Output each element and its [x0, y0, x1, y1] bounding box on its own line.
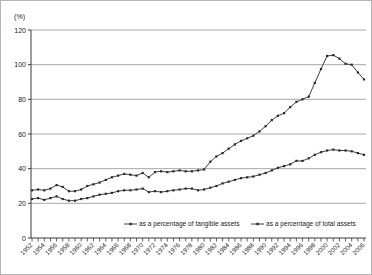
legend-item-0: as a percentage of tangible assets [124, 220, 240, 228]
x-tick-label: 1996 [289, 241, 304, 256]
legend-label: as a percentage of tangible assets [139, 220, 240, 228]
series-1-marker [332, 149, 334, 151]
series-line-1 [32, 150, 364, 201]
series-1-marker [265, 172, 267, 174]
series-1-marker [154, 190, 156, 192]
y-axis-title: (%) [14, 13, 25, 21]
x-tick-label: 1974 [154, 241, 169, 256]
series-0-marker [129, 174, 131, 176]
x-tick-label: 2006 [351, 241, 366, 256]
series-1-marker [148, 191, 150, 193]
x-tick-label: 1978 [179, 241, 194, 256]
y-tick-label: 20 [18, 200, 26, 207]
series-1-marker [80, 198, 82, 200]
y-tick-label: 100 [14, 61, 26, 68]
x-tick-label: 1986 [228, 241, 243, 256]
x-tick-label: 1954 [31, 241, 46, 256]
series-1-marker [117, 190, 119, 192]
series-0-marker [283, 112, 285, 114]
series-1-marker [326, 149, 328, 151]
series-0-marker [172, 170, 174, 172]
series-0-marker [111, 176, 113, 178]
series-0-marker [301, 98, 303, 100]
series-0-marker [289, 106, 291, 108]
series-0-marker [86, 185, 88, 187]
y-tick-label: 0 [22, 235, 26, 242]
series-1-marker [49, 197, 51, 199]
x-tick-label: 1968 [117, 241, 132, 256]
series-1-marker [314, 154, 316, 156]
series-0-marker [80, 188, 82, 190]
x-tick-label: 1994 [277, 241, 292, 256]
series-0-marker [252, 135, 254, 137]
series-0-marker [197, 169, 199, 171]
chart-figure: 020406080100120(%)1952195419561958196019… [0, 0, 372, 275]
series-1-marker [86, 197, 88, 199]
series-0-marker [74, 190, 76, 192]
series-0-marker [56, 184, 58, 186]
x-tick-label: 1964 [93, 241, 108, 256]
series-0-marker [203, 168, 205, 170]
series-0-marker [295, 101, 297, 103]
x-tick-label: 1958 [56, 241, 71, 256]
x-tick-label: 1960 [68, 241, 83, 256]
y-tick-label: 120 [14, 27, 26, 34]
series-1-marker [191, 188, 193, 190]
series-0-marker [332, 54, 334, 56]
y-tick-label: 60 [18, 131, 26, 138]
series-0-marker [357, 71, 359, 73]
x-tick-label: 1956 [43, 241, 58, 256]
series-1-marker [308, 157, 310, 159]
series-0-marker [258, 130, 260, 132]
series-1-marker [160, 191, 162, 193]
series-1-marker [92, 195, 94, 197]
x-tick-label: 1990 [252, 241, 267, 256]
series-0-marker [215, 155, 217, 157]
series-1-marker [166, 190, 168, 192]
series-0-marker [265, 125, 267, 127]
series-1-marker [123, 189, 125, 191]
x-tick-label: 1970 [130, 241, 145, 256]
series-0-marker [166, 171, 168, 173]
legend-marker-square [129, 223, 131, 225]
x-tick-label: 1980 [191, 241, 206, 256]
series-1-marker [252, 175, 254, 177]
series-0-marker [99, 181, 101, 183]
series-1-marker [240, 177, 242, 179]
series-1-marker [234, 179, 236, 181]
series-0-marker [345, 63, 347, 65]
x-tick-label: 2002 [326, 241, 341, 256]
series-1-marker [338, 149, 340, 151]
series-0-marker [320, 68, 322, 70]
series-1-marker [258, 174, 260, 176]
series-1-marker [215, 185, 217, 187]
x-tick-label: 1984 [216, 241, 231, 256]
series-0-marker [228, 148, 230, 150]
y-tick-label: 80 [18, 96, 26, 103]
series-1-marker [289, 163, 291, 165]
series-0-marker [271, 119, 273, 121]
series-0-marker [154, 171, 156, 173]
series-1-marker [363, 154, 365, 156]
series-0-marker [37, 188, 39, 190]
x-tick-label: 1966 [105, 241, 120, 256]
series-1-marker [56, 195, 58, 197]
series-1-marker [271, 169, 273, 171]
series-1-marker [222, 182, 224, 184]
series-1-marker [301, 160, 303, 162]
series-0-marker [185, 170, 187, 172]
series-1-marker [185, 188, 187, 190]
series-0-marker [62, 186, 64, 188]
series-0-marker [135, 175, 137, 177]
series-0-marker [105, 179, 107, 181]
series-1-marker [197, 189, 199, 191]
series-1-marker [295, 160, 297, 162]
series-1-marker [320, 151, 322, 153]
series-0-marker [234, 143, 236, 145]
series-0-marker [363, 78, 365, 80]
series-0-marker [191, 170, 193, 172]
series-0-marker [123, 173, 125, 175]
series-1-marker [37, 197, 39, 199]
series-1-marker [31, 198, 33, 200]
series-0-marker [92, 183, 94, 185]
